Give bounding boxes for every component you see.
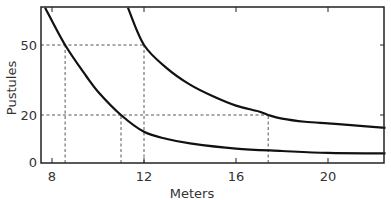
x-tick-label-16: 16 xyxy=(228,169,245,184)
axis-ticks xyxy=(52,7,384,163)
y-axis-label: Pustules xyxy=(4,61,19,116)
chart: 8 12 16 20 0 20 50 Meters Pustules xyxy=(0,0,391,200)
x-tick-label-12: 12 xyxy=(136,169,153,184)
curves xyxy=(45,8,385,154)
x-axis-label: Meters xyxy=(170,186,215,200)
y-tick-label-50: 50 xyxy=(20,38,37,53)
y-tick-label-20: 20 xyxy=(20,108,37,123)
x-tick-label-8: 8 xyxy=(48,169,56,184)
lower-curve xyxy=(45,8,385,154)
x-tick-label-20: 20 xyxy=(320,169,337,184)
upper-curve xyxy=(128,8,386,128)
y-tick-label-0: 0 xyxy=(29,155,37,170)
